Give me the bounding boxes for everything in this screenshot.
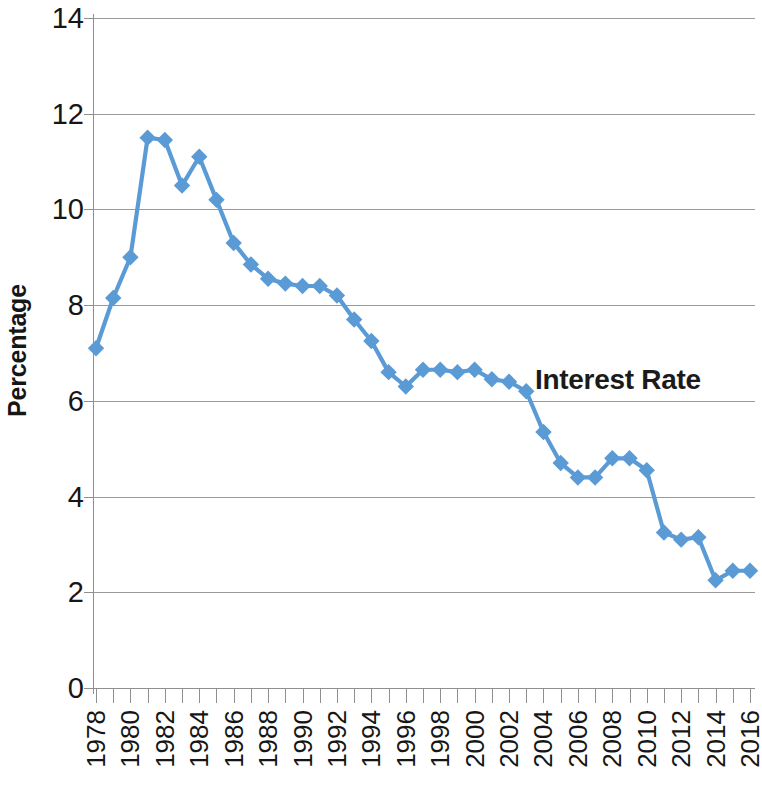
series-annotation-label: Interest Rate	[535, 364, 701, 396]
data-point-2012	[673, 531, 689, 547]
data-point-2001	[484, 371, 500, 387]
series-interest-rate	[0, 0, 762, 798]
y-tick-14	[84, 18, 94, 19]
data-point-2013	[690, 529, 706, 545]
data-point-1990	[294, 278, 310, 294]
data-point-2016	[742, 563, 758, 579]
data-point-1989	[277, 275, 293, 291]
y-tick-6	[84, 401, 94, 402]
y-tick-8	[84, 305, 94, 306]
y-tick-10	[84, 209, 94, 210]
data-point-1982	[157, 132, 173, 148]
y-tick-2	[84, 592, 94, 593]
data-point-2003	[518, 383, 534, 399]
y-tick-4	[84, 497, 94, 498]
data-point-2004	[535, 424, 551, 440]
data-point-2000	[466, 362, 482, 378]
series-markers	[88, 129, 758, 588]
data-point-1980	[122, 249, 138, 265]
data-point-1979	[105, 290, 121, 306]
y-tick-12	[84, 114, 94, 115]
data-point-1985	[208, 192, 224, 208]
data-point-2015	[725, 563, 741, 579]
y-tick-0	[84, 688, 94, 689]
interest-rate-line-chart: Percentage 14121086420 19781980198219841…	[0, 0, 762, 798]
data-point-2014	[707, 572, 723, 588]
data-point-1991	[312, 278, 328, 294]
data-point-1998	[432, 362, 448, 378]
series-line	[96, 138, 750, 581]
data-point-1999	[449, 364, 465, 380]
data-point-2011	[656, 524, 672, 540]
data-point-1981	[139, 129, 155, 145]
data-point-2002	[501, 374, 517, 390]
data-point-1978	[88, 340, 104, 356]
